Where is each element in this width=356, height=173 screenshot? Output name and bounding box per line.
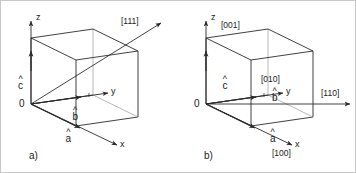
- b-hat-accent-b: ^: [273, 87, 277, 96]
- panel-b-b-vector-label: ^ b: [272, 93, 278, 103]
- cube-a-bottom-edge-back-right: [93, 95, 138, 117]
- cube-a-bottom-edge-front-right: [76, 117, 138, 126]
- panel-a-origin-label: 0: [19, 99, 25, 109]
- a-hat-accent-a: ^: [66, 128, 70, 137]
- cube-b-top-edge-front-right: [251, 51, 313, 60]
- panel-a-x-axis-label: x: [120, 140, 125, 149]
- cube-b-bottom-edge-front-right: [251, 117, 313, 126]
- cube-a-top-edge-back-left: [31, 29, 93, 38]
- panel-b-direction-001-label: [001]: [221, 21, 240, 30]
- panel-b-a-vector-label: ^ a: [270, 134, 276, 144]
- panel-a-c-vector-label: ^ c: [18, 81, 23, 91]
- b-hat-accent-a: ^: [73, 106, 77, 115]
- panel-a-b-vector-arrow: [31, 97, 81, 104]
- cube-a-top-edge-front-right: [76, 51, 138, 60]
- panel-b-y-axis-label: y: [286, 87, 291, 96]
- panel-a-a-vector-label: ^ a: [65, 134, 71, 144]
- c-hat-accent-b: ^: [223, 75, 227, 84]
- cube-a-top-edge-back-right: [93, 29, 138, 51]
- panel-a-caption: a): [29, 151, 38, 161]
- panel-b-direction-010-label: [010]: [261, 75, 280, 84]
- panel-b-b-vector-arrow: [206, 97, 256, 104]
- panel-a-direction-111-label: [111]: [121, 17, 139, 26]
- figure-crystal-axes: z y x 0 ^ c ^ b ^ a [111] a) z [001] y […: [0, 0, 356, 173]
- panel-a-z-axis-label: z: [36, 13, 41, 22]
- panel-b-x-axis-label: x: [295, 140, 300, 149]
- diagram-canvas: [1, 1, 356, 173]
- cube-b-top-edge-front-left: [206, 38, 251, 60]
- panel-b-origin-label: 0: [194, 99, 200, 109]
- panel-b-direction-110-label: [110]: [321, 89, 339, 98]
- panel-b-caption: b): [204, 151, 213, 161]
- panel-a-graphics: [31, 21, 161, 145]
- a-hat-accent-b: ^: [271, 128, 275, 137]
- panel-b-c-vector-label: ^ c: [222, 81, 227, 91]
- panel-b-direction-100-label: [100]: [272, 149, 291, 158]
- cube-a-top-edge-front-left: [31, 38, 76, 60]
- panel-b-a-vector-arrow: [206, 104, 255, 128]
- cube-b-top-edge-back-left: [206, 29, 268, 38]
- panel-a-b-vector-label: ^ b: [72, 112, 78, 122]
- c-hat-accent-a: ^: [18, 75, 22, 84]
- panel-b-z-axis-label: z: [211, 13, 216, 22]
- panel-a-y-axis-label: y: [111, 87, 116, 96]
- cube-b-top-edge-back-right: [268, 29, 313, 51]
